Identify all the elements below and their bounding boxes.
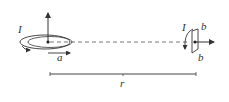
label-radius: a <box>57 51 63 63</box>
label-distance: r <box>120 77 125 89</box>
diagram-canvas: I a r I b b <box>0 0 229 102</box>
loop-center-dot <box>46 40 49 43</box>
large-loop <box>20 35 72 50</box>
label-side-bottom: b <box>198 51 204 63</box>
small-loop <box>185 29 214 53</box>
label-small-loop-current: I <box>181 21 187 33</box>
label-large-loop-current: I <box>17 23 23 35</box>
label-side-top: b <box>201 20 207 32</box>
